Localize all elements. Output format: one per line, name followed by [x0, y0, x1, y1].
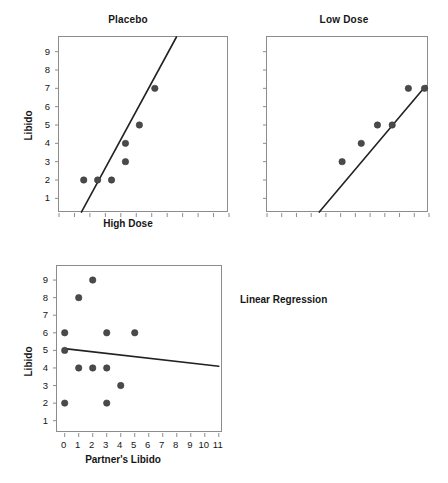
linear-regression-annotation: Linear Regression [240, 294, 327, 305]
panel-placebo-ylabel: Libido [23, 104, 34, 148]
svg-text:7: 7 [159, 439, 164, 450]
svg-text:8: 8 [43, 292, 48, 303]
panel-placebo-canvas [59, 37, 229, 213]
panel-partner-libido-points [62, 277, 138, 406]
svg-text:1: 1 [43, 415, 48, 426]
svg-text:6: 6 [145, 439, 150, 450]
panel-low-dose-fitline [319, 86, 426, 213]
panel-partner-libido-ylabels: 123456789 [43, 274, 48, 426]
svg-text:1: 1 [75, 439, 80, 450]
svg-text:6: 6 [45, 101, 50, 112]
svg-text:10: 10 [198, 439, 209, 450]
panel-low-dose: Low Dose [258, 10, 438, 245]
svg-text:9: 9 [187, 439, 192, 450]
panel-partner-libido-ylabel: Libido [23, 340, 34, 384]
svg-text:2: 2 [89, 439, 94, 450]
panel-low-dose-yticks [263, 52, 267, 199]
panel-partner-libido: Libido Partner's Libido 123456789 012345… [20, 258, 232, 473]
svg-text:3: 3 [103, 439, 108, 450]
panel-low-dose-title: Low Dose [258, 14, 430, 25]
svg-text:5: 5 [131, 439, 136, 450]
panel-partner-libido-plotbox [56, 265, 222, 432]
svg-text:4: 4 [45, 137, 50, 148]
panel-partner-libido-fitline [65, 349, 219, 367]
svg-text:0: 0 [61, 439, 66, 450]
panel-placebo-yticks [55, 52, 59, 199]
svg-text:7: 7 [45, 82, 50, 93]
panel-partner-libido-canvas [57, 266, 223, 433]
svg-text:4: 4 [43, 362, 48, 373]
svg-text:8: 8 [45, 64, 50, 75]
svg-text:9: 9 [45, 46, 50, 57]
svg-text:1: 1 [45, 192, 50, 203]
panel-low-dose-plotbox [266, 36, 428, 212]
svg-text:5: 5 [43, 344, 48, 355]
panel-placebo-xlabel: High Dose [22, 218, 234, 229]
panel-placebo-xticks [59, 213, 229, 217]
panel-partner-libido-xlabel: Partner's Libido [20, 454, 226, 465]
panel-partner-libido-xticks [65, 433, 219, 437]
svg-text:11: 11 [213, 439, 223, 450]
svg-text:6: 6 [43, 327, 48, 338]
svg-text:4: 4 [117, 439, 122, 450]
svg-text:2: 2 [43, 397, 48, 408]
panel-placebo-ylabels: 123456789 [45, 46, 50, 204]
panel-placebo-fitline [81, 37, 176, 212]
svg-text:7: 7 [43, 309, 48, 320]
panel-placebo-plotbox [58, 36, 228, 212]
svg-text:3: 3 [43, 380, 48, 391]
panel-low-dose-xticks [267, 213, 429, 217]
svg-text:9: 9 [43, 274, 48, 285]
panel-placebo-points [81, 85, 158, 183]
svg-text:3: 3 [45, 156, 50, 167]
panel-low-dose-points [339, 85, 428, 165]
svg-text:2: 2 [45, 174, 50, 185]
svg-text:5: 5 [45, 119, 50, 130]
panel-placebo: Placebo Libido High Dose 123456789 [22, 10, 234, 245]
panel-low-dose-canvas [267, 37, 429, 213]
panel-partner-libido-yticks [53, 280, 57, 421]
linear-regression-figure: Placebo Libido High Dose 123456789 Low D… [0, 0, 448, 483]
panel-placebo-title: Placebo [22, 14, 234, 25]
svg-text:8: 8 [173, 439, 178, 450]
panel-partner-libido-xlabels: 01234567891011 [61, 439, 223, 450]
